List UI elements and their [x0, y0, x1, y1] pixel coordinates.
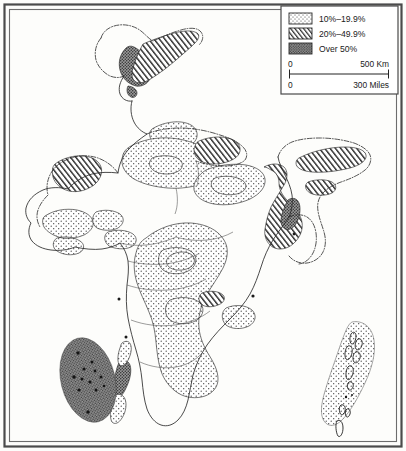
- legend-swatch-hatch: [289, 28, 312, 39]
- scalebar-km-start: 0: [288, 59, 293, 69]
- legend-label-3: Over 50%: [319, 44, 358, 54]
- lakshadweep-islet: [76, 351, 79, 354]
- nicobar-islet: [351, 394, 353, 396]
- lakshadweep-islet: [82, 367, 85, 370]
- lakshadweep-islet: [86, 410, 89, 413]
- lakshadweep-islet: [77, 388, 80, 391]
- lakshadweep-islet: [100, 376, 103, 379]
- scalebar-km-end: 500 Km: [360, 59, 389, 69]
- region-assam: [296, 147, 366, 172]
- nicobar-islet: [345, 396, 347, 398]
- coastal-marker: [118, 298, 121, 301]
- region-gujarat-east: [105, 230, 136, 249]
- region-meghalaya: [306, 180, 336, 196]
- lakshadweep-islet: [88, 380, 91, 383]
- lakshadweep-islet: [81, 378, 84, 381]
- lakshadweep-islet: [95, 389, 98, 392]
- scalebar-miles-end: 300 Miles: [353, 80, 389, 90]
- legend-label-2: 20%–49.9%: [319, 29, 366, 39]
- coastal-marker: [293, 233, 296, 236]
- region-east-central-hatch: [199, 291, 224, 306]
- coastal-marker: [125, 336, 128, 339]
- lakshadweep-islet: [94, 370, 97, 373]
- legend-label-1: 10%–19.9%: [319, 14, 366, 24]
- andaman-nicobar-island-group: [321, 322, 374, 437]
- scalebar-miles-start: 0: [288, 80, 293, 90]
- legend: 10%–19.9% 20%–49.9% Over 50% 0 500 Km 0 …: [281, 6, 398, 94]
- coastal-marker: [251, 294, 254, 297]
- region-konkan-dotted: [118, 341, 131, 365]
- region-east-coast-lobe: [222, 306, 255, 329]
- lakshadweep-islet: [103, 385, 106, 388]
- map-figure: 10%–19.9% 20%–49.9% Over 50% 0 500 Km 0 …: [0, 0, 406, 451]
- lakshadweep-islet: [72, 375, 76, 379]
- legend-swatch-dark: [289, 43, 312, 54]
- region-central-deccan: [134, 223, 227, 398]
- andaman-extent: [321, 322, 374, 426]
- interior-line-8: [175, 188, 177, 214]
- lakshadweep-islet: [91, 361, 94, 364]
- map-canvas: 10%–19.9% 20%–49.9% Over 50% 0 500 Km 0 …: [0, 0, 406, 451]
- region-bihar-hatch: [194, 137, 240, 164]
- legend-swatch-dots: [289, 13, 312, 24]
- region-gujarat-saurashtra: [93, 210, 123, 230]
- region-gujarat: [43, 209, 94, 254]
- region-kashmir-east: [132, 31, 199, 83]
